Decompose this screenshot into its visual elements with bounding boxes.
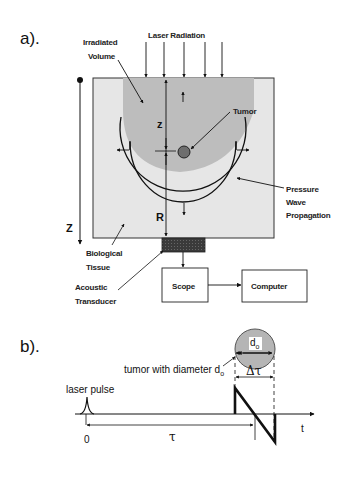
- tumor-marker: [178, 146, 190, 158]
- radius-label: R: [156, 211, 164, 223]
- pressure-wave-label-3: Propagation: [286, 211, 331, 220]
- depth-axis-label: Z: [66, 222, 73, 234]
- panel-a: a). Laser Radiation Irradiated Volume: [20, 29, 331, 306]
- origin-label: 0: [84, 434, 90, 445]
- tumor-diameter-label: tumor with diameter do: [124, 364, 224, 377]
- small-z-label: z: [157, 118, 163, 130]
- photoacoustic-diagram: a). Laser Radiation Irradiated Volume: [0, 0, 344, 478]
- panel-a-label: a).: [20, 29, 40, 48]
- pressure-wave-label-2: Wave: [286, 198, 307, 207]
- laser-pulse-label: laser pulse: [66, 384, 115, 395]
- panel-b-label: b).: [20, 337, 40, 356]
- panel-b: b). do tumor with diameter do Δτ t laser…: [20, 329, 314, 445]
- laser-radiation-label: Laser Radiation: [148, 31, 205, 40]
- tumor-diameter-pointer: [223, 357, 235, 366]
- tissue-label-2: Tissue: [86, 263, 111, 272]
- delta-tau-label: Δτ: [246, 364, 262, 378]
- time-axis-label: t: [301, 423, 304, 434]
- irradiated-volume-label-2: Volume: [88, 52, 116, 61]
- laser-arrows: [146, 42, 222, 77]
- transducer-label-2: Transducer: [75, 297, 116, 306]
- scope-label: Scope: [172, 282, 196, 291]
- tumor-label: Tumor: [233, 107, 256, 116]
- acoustic-transducer: [162, 238, 205, 252]
- transducer-pointer: [118, 251, 163, 290]
- irradiated-volume-label-1: Irradiated: [83, 38, 118, 47]
- laser-pulse-waveform: [80, 397, 94, 414]
- transducer-label-1: Acoustic: [75, 283, 108, 292]
- tau-label: τ: [169, 430, 176, 444]
- computer-label: Computer: [251, 282, 287, 291]
- tissue-label-1: Biological: [86, 249, 122, 258]
- pressure-wave-label-1: Pressure: [286, 185, 319, 194]
